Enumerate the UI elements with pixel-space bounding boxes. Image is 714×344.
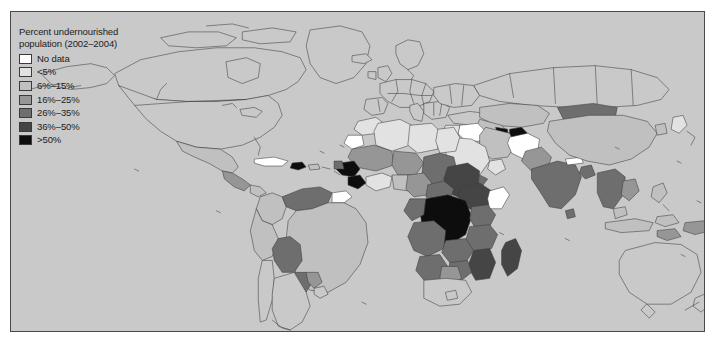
region-europe — [352, 40, 488, 125]
legend-swatch-under-5 — [19, 67, 32, 77]
legend-label-36-50: 36%–50% — [37, 122, 80, 132]
legend-swatch-16-25 — [19, 95, 32, 105]
undernourishment-world-map-figure: .ld{fill:none;stroke:#3c3c3c;stroke-widt… — [0, 0, 714, 344]
legend-label-26-35: 26%–35% — [37, 108, 80, 118]
legend-label-no-data: No data — [37, 54, 70, 64]
legend-item-over-50: >50% — [19, 134, 151, 148]
legend-label-6-15: 6%–15% — [37, 81, 74, 91]
legend-title: Percent undernourished population (2002–… — [19, 26, 151, 49]
legend-swatch-no-data — [19, 54, 32, 64]
legend-label-16-25: 16%–25% — [37, 95, 80, 105]
legend-swatch-over-50 — [19, 135, 32, 145]
map-legend: Percent undernourished population (2002–… — [19, 26, 151, 147]
legend-item-under-5: <5% — [19, 66, 151, 80]
region-caribbean — [254, 157, 340, 175]
legend-label-under-5: <5% — [37, 67, 56, 77]
legend-item-6-15: 6%–15% — [19, 79, 151, 93]
legend-item-16-25: 16%–25% — [19, 93, 151, 107]
legend-item-no-data: No data — [19, 52, 151, 66]
legend-item-36-50: 36%–50% — [19, 120, 151, 134]
map-panel: .ld{fill:none;stroke:#3c3c3c;stroke-widt… — [10, 11, 705, 332]
legend-label-over-50: >50% — [37, 135, 61, 145]
region-asia — [522, 115, 704, 240]
legend-item-26-35: 26%–35% — [19, 106, 151, 120]
region-south-america — [250, 187, 368, 330]
legend-swatch-36-50 — [19, 122, 32, 132]
legend-swatch-6-15 — [19, 81, 32, 91]
region-mexico-central-america — [177, 141, 267, 197]
region-oceania — [619, 243, 704, 319]
legend-swatch-26-35 — [19, 108, 32, 118]
